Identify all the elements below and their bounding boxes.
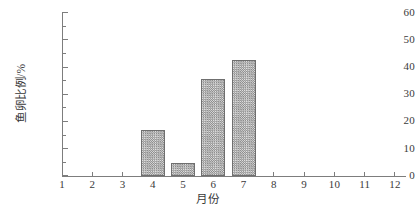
- bar-month-4: [141, 130, 165, 176]
- bar-month-5: [171, 163, 195, 176]
- y-axis-title-text: 鱼卵比例/%: [15, 63, 27, 122]
- y-axis-title: 鱼卵比例/%: [14, 38, 28, 148]
- bar-series: [0, 0, 415, 217]
- bar-chart-figure: 0102030405060 123456789101112 月份 鱼卵比例/%: [0, 0, 415, 217]
- x-axis-title: 月份: [0, 192, 415, 206]
- bar-month-7: [232, 60, 256, 176]
- bar-month-6: [201, 79, 225, 175]
